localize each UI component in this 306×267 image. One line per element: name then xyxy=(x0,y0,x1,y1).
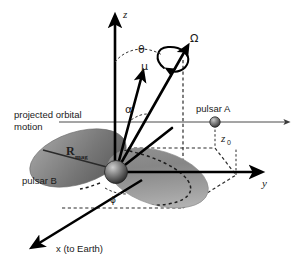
pulsar-b-sphere xyxy=(105,161,128,184)
r-mag-subscript: mag xyxy=(75,153,88,161)
pulsar-a-label: pulsar A xyxy=(196,103,231,114)
diagram-canvas: z y x (to Earth) θ μ Ω α ϕ pulsar A puls… xyxy=(0,0,306,267)
alpha-angle-arc xyxy=(131,114,147,120)
mu-vector-label: μ xyxy=(141,60,148,73)
projected-orbital-motion-line2: motion xyxy=(14,121,43,132)
theta-angle-label: θ xyxy=(138,43,145,56)
pulsar-b-label: pulsar B xyxy=(22,175,57,186)
projected-orbital-motion-line1: projected orbital xyxy=(14,109,82,120)
z0-label: z xyxy=(220,132,226,144)
y-axis-label: y xyxy=(261,177,267,189)
x-axis-line xyxy=(36,180,142,245)
x-axis-label: x (to Earth) xyxy=(56,243,103,254)
z0-subscript: 0 xyxy=(227,139,231,146)
r-mag-label: R xyxy=(66,144,75,158)
alpha-angle-label: α xyxy=(125,103,132,116)
omega-rotation-curl xyxy=(158,47,189,72)
z-axis-label: z xyxy=(122,8,128,20)
pulsar-geometry-diagram: z y x (to Earth) θ μ Ω α ϕ pulsar A puls… xyxy=(0,0,306,267)
pulsar-a-sphere xyxy=(210,117,220,127)
phi-angle-label: ϕ xyxy=(110,195,116,205)
omega-vector-label: Ω xyxy=(190,32,198,45)
